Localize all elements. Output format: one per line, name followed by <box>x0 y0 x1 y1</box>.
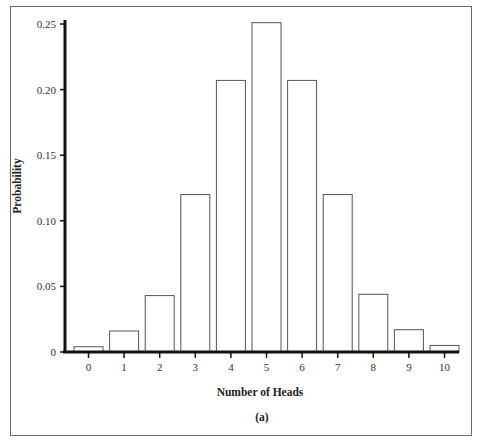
x-tick-label: 4 <box>228 361 234 373</box>
x-tick-label: 6 <box>299 361 305 373</box>
x-tick-label: 8 <box>371 361 377 373</box>
x-axis-ticks: 012345678910 <box>86 352 451 373</box>
bar-2 <box>145 296 174 352</box>
bar-chart: 00.050.100.150.200.25 012345678910 Proba… <box>0 0 482 443</box>
y-axis-ticks: 00.050.100.150.200.25 <box>37 18 65 358</box>
x-tick-label: 10 <box>439 361 451 373</box>
x-tick-label: 0 <box>86 361 92 373</box>
y-tick-label: 0.25 <box>37 18 57 30</box>
bar-7 <box>323 195 352 352</box>
bar-1 <box>110 331 139 352</box>
y-tick-label: 0 <box>51 346 57 358</box>
y-tick-label: 0.05 <box>37 280 57 292</box>
bar-9 <box>394 330 423 352</box>
x-tick-label: 7 <box>335 361 341 373</box>
y-tick-label: 0.15 <box>37 149 57 161</box>
x-tick-label: 1 <box>121 361 127 373</box>
y-axis-title: Probability <box>11 158 24 214</box>
bar-5 <box>252 23 281 352</box>
bar-6 <box>288 80 317 352</box>
x-tick-label: 3 <box>193 361 199 373</box>
y-tick-label: 0.10 <box>37 215 57 227</box>
x-axis-title: Number of Heads <box>217 386 304 398</box>
x-tick-label: 5 <box>264 361 270 373</box>
x-tick-label: 2 <box>157 361 163 373</box>
bar-4 <box>216 80 245 352</box>
bar-8 <box>359 294 388 352</box>
bar-3 <box>181 195 210 352</box>
x-tick-label: 9 <box>406 361 412 373</box>
y-tick-label: 0.20 <box>37 84 57 96</box>
bars <box>74 23 459 352</box>
figure-caption: (a) <box>255 411 269 424</box>
